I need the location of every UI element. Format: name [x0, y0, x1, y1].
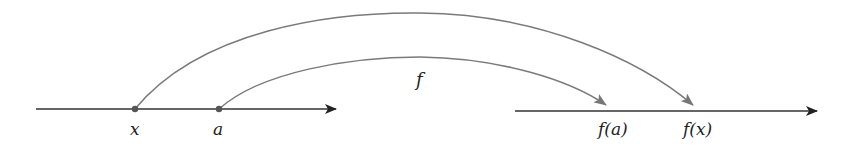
function-mapping-diagram: x a f(a) f(x) f — [0, 0, 843, 146]
label-function-f: f — [416, 71, 423, 89]
mapping-arc-a-to-fa — [219, 57, 606, 109]
label-fx: f(x) — [683, 121, 712, 138]
mapping-arc-x-to-fx — [135, 13, 693, 109]
label-a: a — [213, 121, 223, 138]
point-a-dot — [216, 106, 222, 112]
label-fa: f(a) — [598, 121, 628, 138]
label-x: x — [130, 121, 140, 138]
point-x-dot — [132, 106, 138, 112]
